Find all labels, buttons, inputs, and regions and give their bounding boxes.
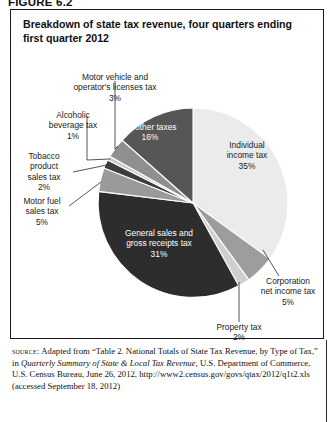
source-publication-title: Quarterly Summary of State & Local Tax R… xyxy=(21,358,198,368)
label-all-other-taxes: All other taxes 16% xyxy=(107,122,193,143)
figure-frame: Breakdown of state tax revenue, four qua… xyxy=(10,9,324,339)
label-corporation-net-income-tax: Corporation net income tax 5% xyxy=(251,276,325,307)
pie-chart: Motor vehicle and operator's licenses ta… xyxy=(11,10,325,340)
label-motor-fuel-sales-tax: Motor fuel sales tax 5% xyxy=(13,196,71,227)
label-tobacco-product-sales-tax: Tobacco product sales tax 2% xyxy=(15,151,73,192)
leader-motor-fuel xyxy=(69,182,101,206)
label-motor-vehicle-and-operators-licenses-tax: Motor vehicle and operator's licenses ta… xyxy=(49,72,181,103)
label-alcoholic-beverage-tax: Alcoholic beverage tax 1% xyxy=(35,110,111,141)
source-note: source: Adapted from “Table 2. National … xyxy=(12,346,318,392)
label-general-sales-and-gross-receipts-tax: General sales and gross receipts tax 31% xyxy=(105,228,213,259)
figure-label: FIGURE 6.2 xyxy=(8,0,73,8)
label-individual-income-tax: Individual income tax 35% xyxy=(209,140,285,171)
page-edge-rule xyxy=(326,340,327,422)
label-property-tax: Property tax 2% xyxy=(197,322,281,343)
source-label: source: xyxy=(12,346,40,356)
leader-tobacco xyxy=(73,165,107,172)
